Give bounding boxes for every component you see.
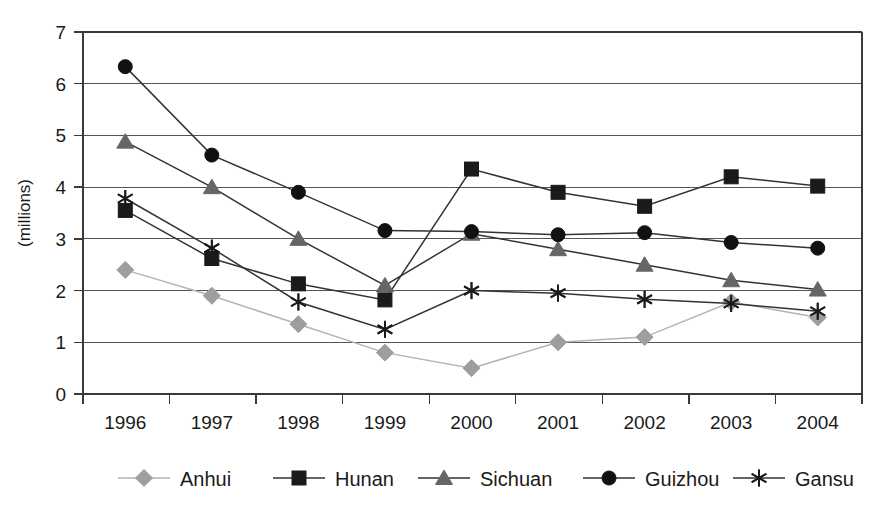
data-point-hunan-1998 — [291, 277, 305, 291]
y-tick-label: 4 — [55, 177, 66, 198]
series-line-guizhou — [125, 67, 817, 249]
x-tick-label: 2000 — [450, 412, 492, 433]
data-point-sichuan-1999 — [376, 277, 393, 292]
data-point-anhui-2001 — [550, 334, 567, 351]
legend-item-anhui[interactable]: Anhui — [118, 468, 231, 490]
x-tick-label: 1996 — [104, 412, 146, 433]
data-point-hunan-2001 — [551, 185, 565, 199]
data-point-guizhou-1997 — [205, 148, 219, 162]
plot-frame — [83, 32, 862, 394]
data-point-anhui-2002 — [636, 329, 653, 346]
y-tick-label: 1 — [55, 332, 66, 353]
data-point-hunan-1999 — [378, 293, 392, 307]
data-point-anhui-1996 — [117, 261, 134, 278]
x-tick-label: 1999 — [364, 412, 406, 433]
chart-legend: AnhuiHunanSichuanGuizhouGansu — [118, 468, 854, 490]
legend-label-sichuan: Sichuan — [480, 468, 552, 490]
y-tick-label: 3 — [55, 229, 66, 250]
data-point-anhui-1998 — [290, 316, 307, 333]
data-point-guizhou-2004 — [811, 241, 825, 255]
y-tick-label: 2 — [55, 281, 66, 302]
data-point-sichuan-1997 — [203, 179, 220, 194]
series-sichuan — [117, 134, 826, 296]
legend-item-hunan[interactable]: Hunan — [273, 468, 394, 490]
x-tick-label: 1997 — [191, 412, 233, 433]
data-point-hunan-2000 — [465, 162, 479, 176]
legend-label-gansu: Gansu — [795, 468, 854, 490]
x-tick-label: 2001 — [537, 412, 579, 433]
data-point-guizhou-1998 — [291, 185, 305, 199]
y-tick-label: 6 — [55, 74, 66, 95]
data-point-gansu-1998 — [291, 293, 306, 310]
data-point-gansu-1999 — [378, 321, 393, 338]
data-point-anhui-1999 — [376, 344, 393, 361]
gridlines — [83, 32, 862, 342]
data-point-hunan-2004 — [811, 179, 825, 193]
data-point-anhui-2000 — [463, 360, 480, 377]
x-tick-label: 2004 — [797, 412, 840, 433]
legend-label-anhui: Anhui — [180, 468, 231, 490]
data-point-guizhou-1996 — [118, 60, 132, 74]
x-tick-label: 1998 — [277, 412, 319, 433]
y-tick-label: 0 — [55, 384, 66, 405]
legend-label-guizhou: Guizhou — [645, 468, 720, 490]
data-point-hunan-2002 — [638, 199, 652, 213]
data-point-guizhou-2000 — [465, 225, 479, 239]
legend-marker-anhui — [136, 470, 153, 487]
legend-marker-guizhou — [602, 471, 616, 485]
chart-canvas: 01234567 1996199719981999200020012002200… — [0, 0, 885, 512]
series-guizhou — [118, 60, 824, 256]
data-point-guizhou-2001 — [551, 228, 565, 242]
legend-label-hunan: Hunan — [335, 468, 394, 490]
data-point-sichuan-1998 — [290, 231, 307, 246]
legend-item-sichuan[interactable]: Sichuan — [418, 468, 552, 490]
legend-marker-hunan — [292, 471, 306, 485]
data-point-anhui-1997 — [203, 287, 220, 304]
data-point-hunan-2003 — [724, 170, 738, 184]
x-axis-ticks: 199619971998199920002001200220032004 — [83, 394, 862, 433]
data-point-guizhou-2003 — [724, 235, 738, 249]
y-axis-label: (millions) — [15, 179, 34, 247]
series-gansu — [118, 190, 825, 338]
y-axis-ticks: 01234567 — [55, 22, 83, 405]
data-point-guizhou-1999 — [378, 224, 392, 238]
legend-item-gansu[interactable]: Gansu — [733, 468, 854, 490]
y-axis-label-text: (millions) — [15, 179, 34, 247]
y-tick-label: 7 — [55, 22, 66, 43]
data-series — [117, 60, 826, 377]
legend-item-guizhou[interactable]: Guizhou — [583, 468, 720, 490]
x-tick-label: 2003 — [710, 412, 752, 433]
x-tick-label: 2002 — [623, 412, 665, 433]
data-point-guizhou-2002 — [638, 226, 652, 240]
y-tick-label: 5 — [55, 125, 66, 146]
line-chart: 01234567 1996199719981999200020012002200… — [0, 0, 885, 512]
